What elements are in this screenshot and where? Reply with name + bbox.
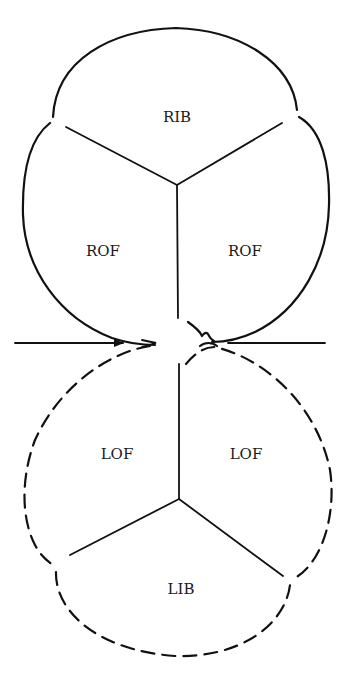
lib-right-divider xyxy=(179,499,283,576)
junction-dash xyxy=(200,343,217,346)
upper-dividers xyxy=(66,123,282,318)
upper-outline xyxy=(23,28,329,345)
right-rof-arc xyxy=(212,117,329,342)
left-rof-arc xyxy=(23,123,155,345)
label-lof-right: LOF xyxy=(230,445,263,463)
lower-dividers xyxy=(70,364,283,576)
rib-left-divider xyxy=(66,127,177,185)
bilobed-diagram: RIB ROF ROF LOF LOF LIB xyxy=(0,0,351,690)
rib-arc xyxy=(53,28,297,117)
labels: RIB ROF ROF LOF LOF LIB xyxy=(86,108,262,598)
rof-center-divider xyxy=(177,185,178,318)
rib-right-divider xyxy=(177,123,282,185)
label-lib: LIB xyxy=(168,580,195,598)
label-rof-right: ROF xyxy=(228,242,262,260)
right-notch-mark xyxy=(188,322,214,341)
label-rof-left: ROF xyxy=(86,242,120,260)
arrows xyxy=(15,340,325,347)
label-rib: RIB xyxy=(163,108,191,126)
lib-left-divider xyxy=(70,499,179,555)
label-lof-left: LOF xyxy=(101,445,134,463)
